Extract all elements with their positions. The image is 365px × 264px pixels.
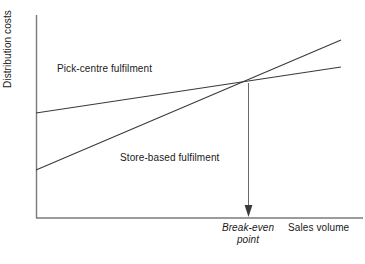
break-even-annotation-line1: Break-even: [222, 222, 274, 233]
break-even-annotation: Break-evenpoint: [196, 222, 300, 246]
series-label-pick-centre: Pick-centre fulfilment: [57, 63, 152, 75]
chart-figure: Distribution costs Pick-centre fulfilmen…: [0, 0, 365, 264]
break-even-arrow-head: [245, 205, 253, 217]
series-line-store-based: [36, 40, 341, 170]
series-label-store-based: Store-based fulfilment: [120, 152, 219, 164]
x-axis-title: Sales volume: [288, 222, 349, 234]
break-even-annotation-line2: point: [196, 234, 300, 246]
y-axis-title: Distribution costs: [2, 0, 14, 88]
